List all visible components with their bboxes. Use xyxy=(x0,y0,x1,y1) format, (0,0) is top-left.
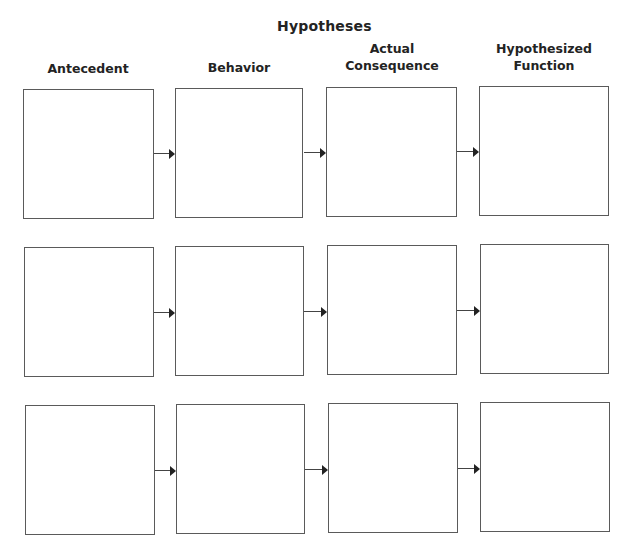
arrow-right-icon xyxy=(304,148,326,158)
arrow-right-icon xyxy=(457,147,479,157)
row1-hypothesized-function-box[interactable] xyxy=(479,86,609,216)
column-header-behavior: Behavior xyxy=(164,59,314,76)
column-header-text: Behavior xyxy=(164,59,314,76)
row3-hypothesized-function-box[interactable] xyxy=(480,402,610,532)
row2-hypothesized-function-box[interactable] xyxy=(480,244,609,374)
column-header-text: Actual xyxy=(317,40,467,57)
arrow-right-icon xyxy=(304,307,327,317)
arrow-right-icon xyxy=(154,149,176,159)
title-text: Hypotheses xyxy=(277,18,355,34)
column-header-text: Consequence xyxy=(317,57,467,74)
arrow-right-icon xyxy=(155,466,177,476)
row3-actual-consequence-box[interactable] xyxy=(328,403,458,533)
column-header-hypothesized-function: Hypothesized Function xyxy=(469,40,619,74)
arrow-right-icon xyxy=(458,464,480,474)
column-header-antecedent: Antecedent xyxy=(13,60,163,77)
row3-antecedent-box[interactable] xyxy=(25,405,155,535)
arrow-right-icon xyxy=(305,465,328,475)
column-header-text: Antecedent xyxy=(13,60,163,77)
column-header-text: Function xyxy=(469,57,619,74)
row3-behavior-box[interactable] xyxy=(176,404,305,534)
column-header-actual-consequence: Actual Consequence xyxy=(317,40,467,74)
row1-actual-consequence-box[interactable] xyxy=(326,87,457,217)
row1-antecedent-box[interactable] xyxy=(23,89,154,219)
arrow-right-icon xyxy=(154,308,176,318)
row1-behavior-box[interactable] xyxy=(175,88,303,218)
arrow-right-icon xyxy=(457,306,480,316)
row2-actual-consequence-box[interactable] xyxy=(327,245,457,375)
column-header-text: Hypothesized xyxy=(469,40,619,57)
row2-antecedent-box[interactable] xyxy=(24,247,154,377)
row2-behavior-box[interactable] xyxy=(175,246,304,376)
